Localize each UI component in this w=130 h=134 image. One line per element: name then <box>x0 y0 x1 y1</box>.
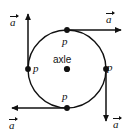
acceleration-vector-top-label: a <box>106 10 112 25</box>
axle-center-dot <box>64 66 70 72</box>
point-left-dot <box>25 66 31 72</box>
point-top-label: p <box>62 36 68 47</box>
point-bottom-label: p <box>62 91 68 102</box>
acceleration-vector-left-label: a <box>10 13 16 28</box>
point-right-label: p <box>107 62 113 73</box>
acceleration-vector-right-label: a <box>113 115 119 130</box>
point-left-label: p <box>33 63 39 74</box>
acceleration-vector-bottom-label: a <box>9 116 15 131</box>
point-bottom-dot <box>64 105 70 111</box>
vector-arrow-accent-icon <box>113 116 122 120</box>
axle-label: axle <box>53 55 71 65</box>
point-top-dot <box>64 27 70 33</box>
vector-arrow-accent-icon <box>106 11 115 15</box>
vector-arrow-accent-icon <box>9 117 18 121</box>
vector-arrow-accent-icon <box>10 14 19 18</box>
rotating-wheel-diagram: p p p p axle a a a a <box>0 0 130 134</box>
